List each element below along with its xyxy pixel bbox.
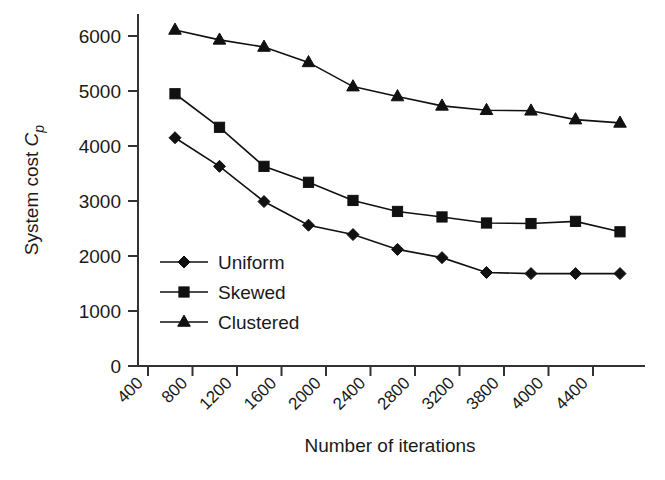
data-point-marker — [525, 268, 537, 280]
svg-text:1600: 1600 — [240, 373, 280, 413]
legend-marker-triangle — [178, 315, 191, 326]
data-point-marker — [436, 252, 448, 264]
x-axis-ticks — [148, 366, 593, 376]
svg-text:3800: 3800 — [463, 373, 503, 413]
x-axis-tick-labels: 4008001200160020002400280032003800400044… — [113, 373, 591, 413]
data-point-marker — [392, 243, 404, 255]
series-skewed — [170, 89, 625, 237]
x-tick-label: 2800 — [374, 373, 414, 413]
y-axis-ticks — [128, 36, 138, 366]
y-tick-label: 3000 — [79, 191, 121, 212]
data-series-layer — [169, 23, 627, 280]
svg-text:2400: 2400 — [329, 373, 369, 413]
data-point-marker — [614, 116, 627, 127]
legend-entry-clustered: Clustered — [160, 312, 299, 333]
svg-text:400: 400 — [113, 373, 146, 406]
x-tick-label: 1200 — [196, 373, 236, 413]
chart-figure: 0100020003000400050006000 40080012001600… — [0, 0, 665, 480]
data-point-marker — [347, 229, 359, 241]
y-tick-label: 5000 — [79, 81, 121, 102]
svg-text:2800: 2800 — [374, 373, 414, 413]
svg-text:3200: 3200 — [418, 373, 458, 413]
svg-text:1200: 1200 — [196, 373, 236, 413]
x-tick-label: 400 — [113, 373, 146, 406]
data-point-marker — [570, 268, 582, 280]
x-tick-label: 3200 — [418, 373, 458, 413]
y-tick-label: 6000 — [79, 26, 121, 47]
y-tick-label: 2000 — [79, 246, 121, 267]
data-point-marker — [169, 132, 181, 144]
y-axis-tick-labels: 0100020003000400050006000 — [79, 26, 121, 377]
svg-text:4400: 4400 — [552, 373, 592, 413]
y-tick-label: 1000 — [79, 301, 121, 322]
y-axis-title-variable: C — [21, 132, 42, 146]
y-tick-label: 4000 — [79, 136, 121, 157]
series-clustered — [169, 23, 627, 127]
x-tick-label: 4400 — [552, 373, 592, 413]
x-tick-label: 3800 — [463, 373, 503, 413]
svg-text:4000: 4000 — [507, 373, 547, 413]
data-point-marker — [526, 218, 536, 228]
x-tick-label: 4000 — [507, 373, 547, 413]
data-point-marker — [303, 219, 315, 231]
data-point-marker — [481, 267, 493, 279]
data-point-marker — [169, 23, 182, 34]
data-point-marker — [480, 103, 493, 114]
data-point-marker — [392, 206, 402, 216]
data-point-marker — [570, 216, 580, 226]
y-axis-title-text: System cost — [21, 146, 42, 255]
svg-text:800: 800 — [158, 373, 191, 406]
data-point-marker — [347, 80, 360, 91]
axis-lines — [133, 14, 645, 366]
data-point-marker — [303, 177, 313, 187]
legend-label: Clustered — [218, 312, 299, 333]
data-point-marker — [170, 89, 180, 99]
data-point-marker — [615, 227, 625, 237]
y-axis-title-subscript: p — [31, 125, 47, 134]
x-axis-title: Number of iterations — [304, 435, 475, 456]
y-tick-label: 0 — [110, 356, 121, 377]
data-point-marker — [259, 161, 269, 171]
data-point-marker — [525, 104, 538, 115]
data-point-marker — [481, 218, 491, 228]
legend-marker-square — [179, 287, 189, 297]
chart-legend: UniformSkewedClustered — [160, 252, 299, 333]
line-chart: 0100020003000400050006000 40080012001600… — [0, 0, 665, 480]
legend-entry-skewed: Skewed — [160, 282, 286, 303]
data-point-marker — [614, 268, 626, 280]
legend-label: Skewed — [218, 282, 286, 303]
legend-marker-diamond — [178, 256, 190, 268]
x-tick-label: 2000 — [285, 373, 325, 413]
legend-entry-uniform: Uniform — [160, 252, 285, 273]
data-point-marker — [348, 195, 358, 205]
y-axis-title: System cost Cp — [21, 125, 47, 255]
series-line — [175, 30, 620, 123]
x-tick-label: 1600 — [240, 373, 280, 413]
data-point-marker — [214, 122, 224, 132]
svg-text:System cost Cp: System cost Cp — [21, 125, 47, 255]
legend-label: Uniform — [218, 252, 285, 273]
x-tick-label: 800 — [158, 373, 191, 406]
x-tick-label: 2400 — [329, 373, 369, 413]
svg-text:2000: 2000 — [285, 373, 325, 413]
data-point-marker — [437, 212, 447, 222]
